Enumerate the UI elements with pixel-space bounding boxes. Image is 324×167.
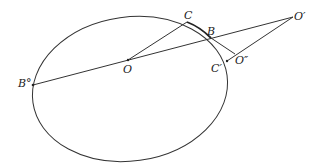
line-bcirc-oprime [33, 17, 293, 85]
label-c-prime: C′ [211, 62, 222, 75]
label-o: O [123, 63, 132, 76]
geometry-diagram: C B O′ O B° O″ C′ [0, 0, 324, 167]
label-o-double-prime: O″ [235, 54, 249, 67]
point-c-prime [226, 60, 228, 62]
point-o [127, 59, 129, 61]
label-c: C [184, 9, 193, 22]
label-b-circ: B° [17, 77, 32, 90]
point-b-circ [32, 84, 35, 87]
line-b-odoubleprime [211, 38, 235, 54]
line-o-c [128, 22, 187, 60]
ellipse-curve [23, 4, 237, 167]
label-b: B [206, 25, 215, 38]
label-o-prime: O′ [294, 10, 306, 23]
